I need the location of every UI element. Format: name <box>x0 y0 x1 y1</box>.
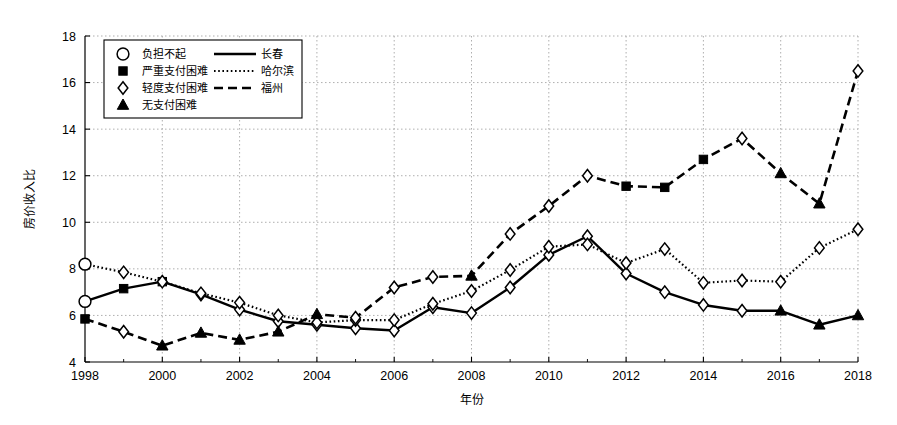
y-tick-label: 14 <box>62 123 76 137</box>
marker-square <box>699 155 707 163</box>
marker-diamond <box>505 228 515 240</box>
legend-line-label: 长春 <box>261 48 283 60</box>
marker-diamond <box>428 271 438 283</box>
legend-marker-label: 无支付困难 <box>142 99 197 111</box>
marker-diamond <box>196 287 206 299</box>
marker-triangle <box>311 308 322 318</box>
y-tick-label: 6 <box>69 309 76 323</box>
x-tick-label: 1998 <box>71 369 99 383</box>
marker-square <box>622 182 630 190</box>
x-tick-label: 2016 <box>767 369 795 383</box>
marker-diamond <box>544 200 554 212</box>
x-tick-label: 2004 <box>303 369 331 383</box>
marker-diamond <box>621 257 631 269</box>
x-tick-label: 2010 <box>535 369 563 383</box>
marker-diamond <box>737 132 747 144</box>
x-tick-label: 2012 <box>612 369 640 383</box>
marker-diamond <box>467 307 477 319</box>
marker-diamond <box>505 264 515 276</box>
x-tick-label: 2000 <box>148 369 176 383</box>
marker-diamond <box>583 170 593 182</box>
marker-square <box>119 284 127 292</box>
marker-diamond <box>737 274 747 286</box>
marker-square <box>119 67 127 75</box>
marker-diamond <box>544 241 554 253</box>
x-tick-label: 2018 <box>844 369 872 383</box>
legend-marker-label: 负担不起 <box>142 47 186 60</box>
marker-diamond <box>776 275 786 287</box>
marker-diamond <box>853 65 863 77</box>
x-tick-label: 2008 <box>458 369 486 383</box>
y-tick-label: 10 <box>62 216 76 230</box>
marker-square <box>81 315 89 323</box>
marker-circle <box>79 258 91 270</box>
legend-line-label: 哈尔滨 <box>261 64 294 77</box>
marker-diamond <box>119 266 129 278</box>
marker-triangle <box>852 309 863 319</box>
marker-circle <box>79 296 91 308</box>
chart-canvas: 4681012141618199820002002200420062008201… <box>0 0 897 425</box>
marker-triangle <box>195 327 206 337</box>
x-axis-title: 年份 <box>460 393 484 407</box>
marker-diamond <box>660 243 670 255</box>
legend-line-label: 福州 <box>261 81 283 94</box>
marker-diamond <box>119 326 129 338</box>
legend-marker-label: 严重支付困难 <box>142 64 208 77</box>
y-tick-label: 12 <box>62 169 76 183</box>
marker-triangle <box>775 167 786 177</box>
x-tick-label: 2014 <box>689 369 717 383</box>
y-tick-label: 18 <box>62 30 76 44</box>
chart-figure: 4681012141618199820002002200420062008201… <box>0 0 897 425</box>
marker-diamond <box>699 299 709 311</box>
x-tick-label: 2002 <box>226 369 254 383</box>
marker-diamond <box>853 223 863 235</box>
y-axis-title: 房价收入比 <box>22 169 37 229</box>
y-tick-label: 4 <box>69 356 76 370</box>
marker-triangle <box>273 326 284 336</box>
x-tick-label: 2006 <box>380 369 408 383</box>
chart-legend: 负担不起严重支付困难轻度支付困难无支付困难长春哈尔滨福州 <box>104 40 302 118</box>
marker-circle <box>117 48 129 60</box>
marker-diamond <box>699 277 709 289</box>
y-tick-label: 16 <box>62 76 76 90</box>
legend-marker-label: 轻度支付困难 <box>142 81 208 94</box>
marker-diamond <box>389 281 399 293</box>
y-tick-label: 8 <box>69 262 76 276</box>
marker-square <box>661 183 669 191</box>
marker-diamond <box>660 286 670 298</box>
marker-diamond <box>467 285 477 297</box>
